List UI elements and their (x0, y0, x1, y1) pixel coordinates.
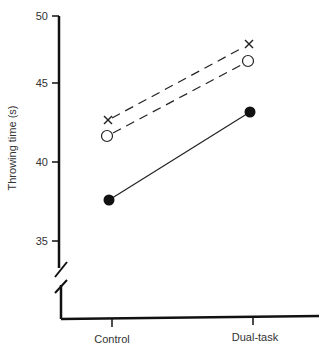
y-axis-title: Throwing time (s) (6, 106, 18, 191)
series-open-circle (102, 56, 254, 142)
series-filled-circle (104, 107, 256, 206)
y-axis: 50 45 40 35 Throwing time (s) (6, 10, 67, 319)
axis-break-mark (55, 262, 67, 277)
x-axis: Control Dual-task (61, 316, 319, 345)
y-tick-35: 35 (36, 235, 48, 247)
open-circle-marker (243, 56, 254, 67)
x-tick-control: Control (94, 333, 129, 345)
filled-circle-marker (245, 107, 256, 118)
series-cross (104, 40, 253, 124)
x-tick-dual-task: Dual-task (232, 331, 279, 343)
filled-circle-marker (104, 195, 115, 206)
chart: 50 45 40 35 Throwing time (s) Control Du… (0, 0, 319, 360)
open-circle-marker (102, 131, 113, 142)
y-tick-40: 40 (36, 156, 48, 168)
y-tick-50: 50 (36, 10, 48, 22)
y-tick-45: 45 (36, 77, 48, 89)
